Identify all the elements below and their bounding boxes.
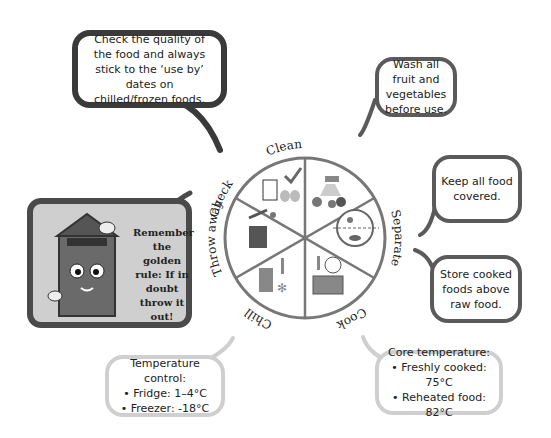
separate-1-bubble-text: Keep all food covered. (440, 174, 514, 204)
clean-bubble-text: Wash all fruit and vegetables before use… (383, 57, 449, 117)
trash-bin-character-icon (37, 206, 137, 324)
check-bubble: Check the quality of the food and always… (72, 30, 227, 108)
cook-bubble-item: • Reheated food: 82°C (379, 390, 499, 420)
separate-2-bubble: Store cooked foods above raw food. (430, 255, 522, 323)
segment-label-throw-away: Throw away (204, 198, 226, 278)
cook-bubble: Core temperature: • Freshly cooked: 75°C… (375, 350, 503, 415)
chill-bubble-item: • Fridge: 1–4°C (123, 386, 207, 401)
svg-text:✻: ✻ (277, 281, 287, 295)
clean-bubble: Wash all fruit and vegetables before use… (375, 57, 457, 117)
segment-label-separate: Separate (388, 208, 406, 268)
cook-bubble-item: • Freshly cooked: 75°C (379, 360, 499, 390)
food-safety-wheel: ✻ Check Clean Separate Cook Chill Throw … (185, 118, 425, 358)
throw-away-text: Remember the golden rule: If in doubt th… (133, 226, 191, 324)
separate-1-bubble: Keep all food covered. (432, 155, 522, 223)
separate-2-bubble-text: Store cooked foods above raw food. (438, 267, 514, 312)
throw-away-box: Remember the golden rule: If in doubt th… (27, 198, 192, 328)
check-bubble-text: Check the quality of the food and always… (90, 32, 209, 107)
chill-bubble-item: • Freezer: -18°C (121, 401, 210, 416)
chill-bubble-title: Temperature control: (109, 356, 221, 386)
chill-bubble: Temperature control: • Fridge: 1–4°C • F… (105, 355, 225, 417)
